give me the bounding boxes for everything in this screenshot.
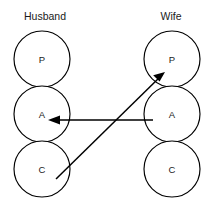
- ego-state-wife-parent[interactable]: P: [144, 31, 200, 87]
- ego-state-husband-parent[interactable]: P: [14, 31, 70, 87]
- column-header-wife: Wife: [161, 10, 182, 22]
- ego-state-husband-adult[interactable]: A: [14, 86, 70, 142]
- ego-label-wife-child: C: [169, 164, 176, 175]
- ego-state-husband-child[interactable]: C: [14, 141, 70, 197]
- ego-label-husband-child: C: [39, 164, 46, 175]
- ego-state-column-wife: P A C: [144, 31, 200, 197]
- diagram-canvas: Husband Wife P A C P: [0, 0, 214, 217]
- ego-label-wife-adult: A: [169, 109, 176, 120]
- ego-label-husband-adult: A: [39, 109, 46, 120]
- ego-label-wife-parent: P: [169, 54, 175, 65]
- ego-state-wife-adult[interactable]: A: [144, 86, 200, 142]
- ego-state-column-husband: P A C: [14, 31, 70, 197]
- ego-label-husband-parent: P: [39, 54, 45, 65]
- pac-transaction-diagram: Husband Wife P A C P: [0, 0, 214, 217]
- ego-state-wife-child[interactable]: C: [144, 141, 200, 197]
- column-header-husband: Husband: [24, 10, 66, 22]
